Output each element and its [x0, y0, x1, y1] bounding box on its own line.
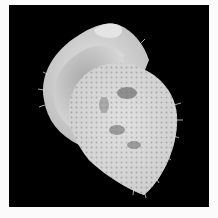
seashell-image: [9, 5, 209, 207]
photo-frame: [9, 5, 209, 207]
